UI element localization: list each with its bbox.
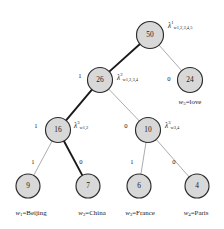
edge-label: 0 — [79, 158, 83, 165]
edge-label: 1 — [130, 158, 133, 165]
tree-edge — [109, 89, 140, 121]
node-value: 24 — [186, 75, 194, 84]
huffman-tree-diagram: 50262416109764 10101010 λ1w1,2,3,4,5λ2w1… — [0, 0, 224, 229]
tree-node: 26 — [88, 68, 113, 93]
lambda-label: λ2w1,2,3,4 — [116, 72, 139, 83]
tree-node: 4 — [185, 174, 209, 198]
node-value: 26 — [96, 75, 104, 84]
tree-node: 9 — [16, 174, 40, 198]
leaf-word-label: w5=love — [179, 98, 202, 106]
node-value: 7 — [86, 181, 90, 190]
edge-label: 0 — [167, 75, 171, 82]
leaf-labels-layer: w1=Beijingw2=Chinaw3=Francew4=Parisw5=lo… — [15, 98, 208, 217]
tree-edge — [109, 44, 140, 72]
node-value: 50 — [146, 30, 154, 39]
edge-label: 0 — [124, 122, 128, 129]
edges-layer — [34, 44, 189, 177]
tree-edge — [66, 90, 92, 121]
node-value: 10 — [144, 125, 152, 134]
lambda-label: λ3w1,2 — [73, 120, 88, 131]
tree-node: 6 — [127, 174, 151, 198]
tree-edge — [159, 45, 182, 71]
edge-label: 1 — [78, 72, 81, 79]
tree-canvas: 50262416109764 10101010 λ1w1,2,3,4,5λ2w1… — [0, 0, 224, 229]
leaf-word-label: w4=Paris — [184, 209, 209, 217]
tree-node: 10 — [136, 118, 161, 143]
nodes-layer: 50262416109764 — [16, 22, 209, 199]
node-value: 6 — [137, 181, 141, 190]
edge-label: 1 — [34, 122, 37, 129]
tree-node: 50 — [137, 22, 164, 49]
tree-node: 7 — [76, 174, 100, 198]
lambda-label: λ1w1,2,3,4,5 — [167, 20, 193, 31]
node-value: 9 — [26, 181, 30, 190]
tree-node: 16 — [46, 118, 71, 143]
edge-label: 1 — [31, 158, 34, 165]
lambda-label: λ3w3,4 — [164, 120, 180, 131]
node-value: 4 — [195, 181, 199, 190]
tree-edge — [34, 141, 52, 175]
leaf-word-label: w3=France — [125, 209, 155, 217]
tree-node: 24 — [178, 68, 203, 93]
leaf-word-label: w1=Beijing — [15, 209, 47, 217]
leaf-word-label: w2=China — [78, 209, 105, 217]
node-value: 16 — [54, 125, 62, 134]
tree-edge — [141, 142, 146, 174]
